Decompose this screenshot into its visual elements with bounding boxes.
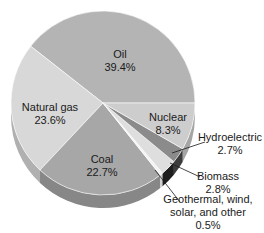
label-hydro-pct: 2.7% bbox=[198, 144, 262, 157]
label-oil: Oil 39.4% bbox=[104, 48, 135, 74]
label-oil-name: Oil bbox=[104, 48, 135, 61]
label-geo-line2: solar, and other bbox=[163, 206, 252, 219]
label-coal-pct: 22.7% bbox=[86, 166, 117, 179]
label-coal: Coal 22.7% bbox=[86, 153, 117, 179]
label-natural-gas-pct: 23.6% bbox=[22, 114, 78, 127]
label-natural-gas: Natural gas 23.6% bbox=[22, 101, 78, 127]
label-biomass-name: Biomass bbox=[197, 170, 239, 183]
label-geothermal: Geothermal, wind, solar, and other 0.5% bbox=[163, 193, 252, 232]
label-hydro-name: Hydroelectric bbox=[198, 131, 262, 144]
label-geo-pct: 0.5% bbox=[163, 219, 252, 232]
label-nuclear: Nuclear 8.3% bbox=[149, 111, 187, 137]
label-nuclear-pct: 8.3% bbox=[149, 124, 187, 137]
label-coal-name: Coal bbox=[86, 153, 117, 166]
label-oil-pct: 39.4% bbox=[104, 61, 135, 74]
label-natural-gas-name: Natural gas bbox=[22, 101, 78, 114]
label-nuclear-name: Nuclear bbox=[149, 111, 187, 124]
label-geo-line1: Geothermal, wind, bbox=[163, 193, 252, 206]
pie-side-geothermal bbox=[160, 173, 162, 188]
label-hydroelectric: Hydroelectric 2.7% bbox=[198, 131, 262, 157]
